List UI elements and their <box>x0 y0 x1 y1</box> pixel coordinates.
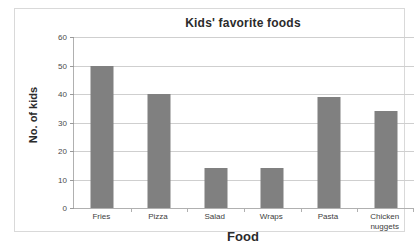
bar <box>261 168 284 208</box>
bar-slot <box>244 37 301 208</box>
plot-area: 0102030405060 <box>73 37 414 209</box>
bar-slot <box>74 37 131 208</box>
bar-slot <box>301 37 358 208</box>
x-axis-tick-label: Salad <box>186 212 243 222</box>
y-axis-tick-label: 30 <box>58 118 67 127</box>
chart-title: Kids' favorite foods <box>73 16 413 30</box>
y-axis-tick-label: 50 <box>58 61 67 70</box>
y-axis-tick-mark <box>70 208 74 209</box>
y-axis-tick-label: 0 <box>63 204 67 213</box>
y-axis-title: No. of kids <box>27 75 39 155</box>
y-axis-tick-label: 10 <box>58 175 67 184</box>
x-axis-tick-label: Pizza <box>130 212 187 222</box>
bar <box>204 168 227 208</box>
bar <box>374 111 397 208</box>
bar-slot <box>357 37 414 208</box>
bar <box>147 94 170 208</box>
bar <box>317 97 340 208</box>
bar-slot <box>131 37 188 208</box>
bar-slot <box>187 37 244 208</box>
x-axis-tick-label: Wraps <box>243 212 300 222</box>
bar-chart-figure: Kids' favorite foods No. of kids 0102030… <box>0 0 419 243</box>
x-axis-tick-label: Pasta <box>300 212 357 222</box>
y-axis-tick-label: 60 <box>58 33 67 42</box>
bar <box>91 66 114 209</box>
x-axis-title: Food <box>73 229 413 243</box>
x-axis-tick-mark <box>413 208 414 212</box>
chart-frame: Kids' favorite foods No. of kids 0102030… <box>14 8 405 232</box>
x-axis-tick-label: Fries <box>73 212 130 222</box>
y-axis-tick-label: 20 <box>58 147 67 156</box>
bars-layer <box>74 37 414 208</box>
y-axis-tick-label: 40 <box>58 90 67 99</box>
